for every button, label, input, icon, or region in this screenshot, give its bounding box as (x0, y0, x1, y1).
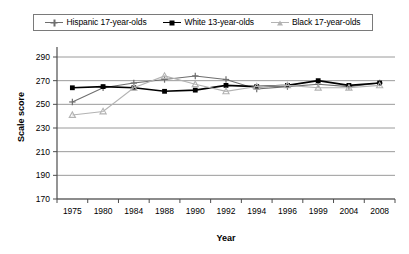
y-tick-label: 210 (36, 147, 50, 157)
x-tick-label: 1994 (247, 206, 266, 216)
x-axis-title: Year (57, 233, 395, 243)
x-tick-label: 2004 (339, 206, 358, 216)
data-point-plus (223, 76, 229, 82)
x-tick-label: 1996 (278, 206, 297, 216)
x-tick-label: 1980 (94, 206, 113, 216)
data-point-plus (192, 73, 198, 79)
y-tick-label: 230 (36, 123, 50, 133)
y-tick-label: 250 (36, 99, 50, 109)
data-point-square (101, 84, 106, 89)
y-axis-title: Scale score (16, 77, 26, 157)
y-tick-label: 270 (36, 76, 50, 86)
x-tick-label: 1984 (124, 206, 143, 216)
data-point-square (70, 85, 75, 90)
data-point-square (193, 88, 198, 93)
x-tick-label: 2008 (370, 206, 389, 216)
chart-figure: Hispanic 17-year-olds White 13-year-olds… (0, 0, 409, 254)
y-tick-label: 290 (36, 52, 50, 62)
x-tick-label: 1988 (155, 206, 174, 216)
x-tick-label: 1990 (186, 206, 205, 216)
data-point-square (316, 78, 321, 83)
x-tick-label: 1999 (309, 206, 328, 216)
x-tick-label: 1975 (63, 206, 82, 216)
plot-area: 170190210230250270290 197519801984198819… (0, 0, 409, 254)
data-point-square (224, 83, 229, 88)
y-tick-label: 170 (36, 194, 50, 204)
y-tick-label: 190 (36, 170, 50, 180)
x-axis-tick-labels: 1975198019841988199019921994199619992004… (63, 206, 389, 216)
data-series-layer (69, 73, 383, 118)
x-tick-label: 1992 (217, 206, 236, 216)
data-point-square (162, 89, 167, 94)
axis-lines (57, 47, 395, 199)
y-axis-tick-labels: 170190210230250270290 (36, 52, 50, 204)
x-axis-ticks (57, 199, 395, 203)
